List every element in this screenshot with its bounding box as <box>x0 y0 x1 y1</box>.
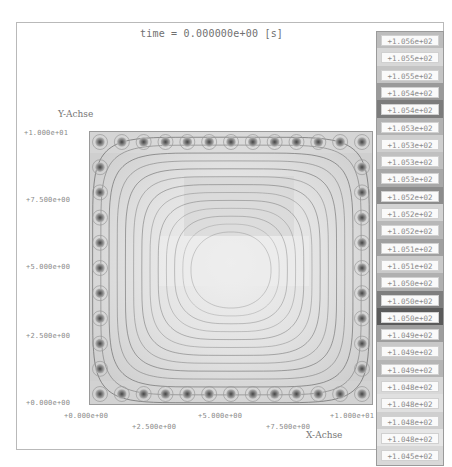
probe-marker <box>357 213 367 223</box>
probe-marker <box>314 389 324 399</box>
x-tick-0: +0.000e+00 <box>64 412 108 420</box>
probe-marker <box>117 389 127 399</box>
probe-marker <box>357 288 367 298</box>
probe-marker <box>292 137 302 147</box>
probe-marker <box>95 137 105 147</box>
y-axis-label: Y-Achse <box>58 109 93 119</box>
probe-marker <box>357 339 367 349</box>
probe-marker <box>270 137 280 147</box>
contour-plot <box>89 131 373 405</box>
probe-marker <box>226 389 236 399</box>
probe-marker <box>204 137 214 147</box>
probe-marker <box>335 137 345 147</box>
probe-marker <box>95 339 105 349</box>
probe-marker <box>357 188 367 198</box>
probe-marker <box>95 364 105 374</box>
probe-marker <box>357 263 367 273</box>
probe-marker <box>357 137 367 147</box>
x-tick-5: +5.000e+00 <box>198 412 242 420</box>
legend-border <box>376 31 444 466</box>
probe-marker <box>161 137 171 147</box>
x-axis-label: X-Achse <box>306 430 342 440</box>
color-legend: +1.056e+02+1.055e+02+1.055e+02+1.054e+02… <box>376 31 444 467</box>
probe-marker <box>357 238 367 248</box>
chart-title: time = 0.000000e+00 [s] <box>140 28 283 39</box>
probe-marker <box>270 389 280 399</box>
probe-marker <box>292 389 302 399</box>
probe-marker <box>357 389 367 399</box>
probe-marker <box>95 263 105 273</box>
probe-marker <box>183 137 193 147</box>
probe-marker <box>314 137 324 147</box>
probe-marker <box>95 389 105 399</box>
x-tick-10: +1.000e+01 <box>330 412 374 420</box>
y-tick-7-5: +7.500e+00 <box>26 196 70 204</box>
x-tick-2-5: +2.500e+00 <box>132 423 176 431</box>
probe-marker <box>95 288 105 298</box>
probe-marker <box>248 389 258 399</box>
probe-marker <box>357 162 367 172</box>
y-tick-0: +0.000e+00 <box>26 399 70 407</box>
probe-marker <box>117 137 127 147</box>
probe-marker <box>95 213 105 223</box>
y-tick-5: +5.000e+00 <box>26 263 70 271</box>
probe-marker <box>204 389 214 399</box>
probe-marker <box>95 188 105 198</box>
field-patch <box>159 236 309 286</box>
y-tick-10: +1.000e+01 <box>24 129 68 137</box>
probe-marker <box>248 137 258 147</box>
probe-marker <box>357 314 367 324</box>
probe-marker <box>95 238 105 248</box>
probe-marker <box>139 137 149 147</box>
probe-marker <box>95 314 105 324</box>
probe-marker <box>335 389 345 399</box>
probe-marker <box>226 137 236 147</box>
probe-marker <box>183 389 193 399</box>
probe-marker <box>357 364 367 374</box>
x-tick-7-5: +7.500e+00 <box>266 423 310 431</box>
contour-plot-canvas <box>89 131 373 405</box>
y-tick-2-5: +2.500e+00 <box>26 332 70 340</box>
probe-marker <box>95 162 105 172</box>
probe-marker <box>161 389 171 399</box>
probe-marker <box>139 389 149 399</box>
